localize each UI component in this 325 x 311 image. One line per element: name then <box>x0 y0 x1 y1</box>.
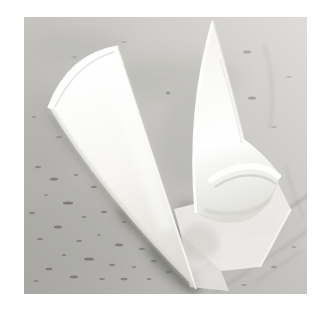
photo <box>24 17 307 294</box>
photo-canvas <box>24 17 307 294</box>
